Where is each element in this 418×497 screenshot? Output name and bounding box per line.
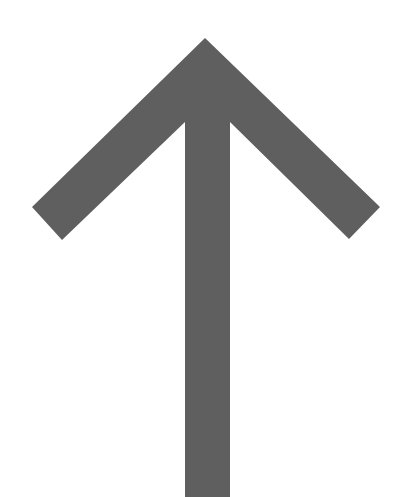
canvas: Large upward-pointing arrow [0,0,418,497]
arrow-shape [32,38,380,497]
arrow-up-icon [0,0,418,497]
